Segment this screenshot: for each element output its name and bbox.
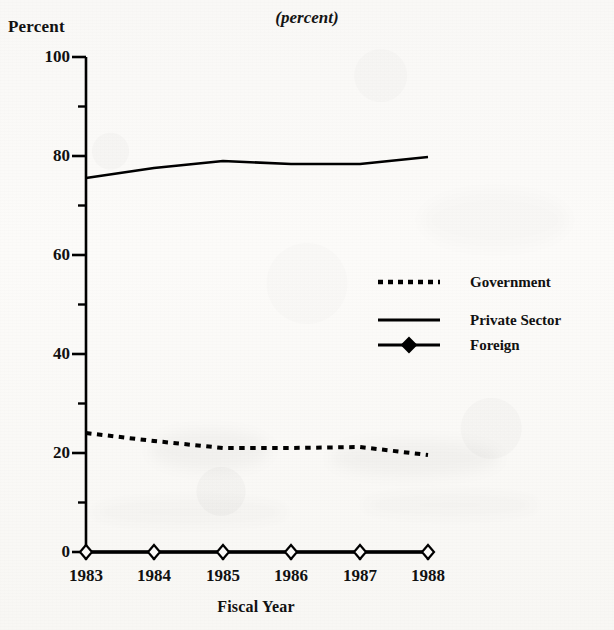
series-line-government <box>86 433 428 455</box>
chart-page: (percent) Percent Fiscal Year 100 80 60 … <box>0 0 614 630</box>
axis-lines <box>86 57 430 552</box>
legend-label-government: Government <box>470 274 551 291</box>
legend-swatch-foreign <box>378 338 440 352</box>
series-line-private-sector <box>86 157 428 178</box>
legend-label-foreign: Foreign <box>470 337 520 354</box>
legend-label-private-sector: Private Sector <box>470 312 561 329</box>
